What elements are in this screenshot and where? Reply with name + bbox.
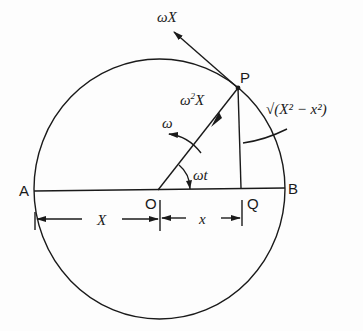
label-b: B (288, 180, 298, 197)
shm-reference-circle-diagram: A B O P Q ωX ω2X ω ωt √(X² − x²) X x (0, 0, 363, 331)
point-p-dot (236, 86, 241, 91)
label-height-formula: √(X² − x²) (266, 101, 327, 118)
label-displacement: x (198, 211, 206, 227)
label-angular-velocity: ω (162, 115, 173, 131)
acc-base: ω (180, 92, 191, 108)
label-a: A (19, 182, 29, 199)
velocity-vector (174, 32, 238, 88)
angle-arc-arrowhead (186, 180, 192, 189)
label-q: Q (247, 195, 259, 212)
diagram-svg: A B O P Q ωX ω2X ω ωt √(X² − x²) X x (0, 0, 363, 331)
angular-velocity-arrow (169, 134, 201, 153)
acc-var: X (194, 92, 205, 108)
label-p: P (240, 69, 250, 86)
perpendicular-pq (238, 88, 241, 188)
label-velocity: ωX (157, 9, 178, 25)
label-o: O (145, 195, 157, 212)
label-acceleration: ω2X (180, 91, 205, 108)
label-angle: ωt (193, 167, 209, 183)
label-amplitude: X (96, 212, 107, 228)
height-leader-line (243, 129, 287, 143)
